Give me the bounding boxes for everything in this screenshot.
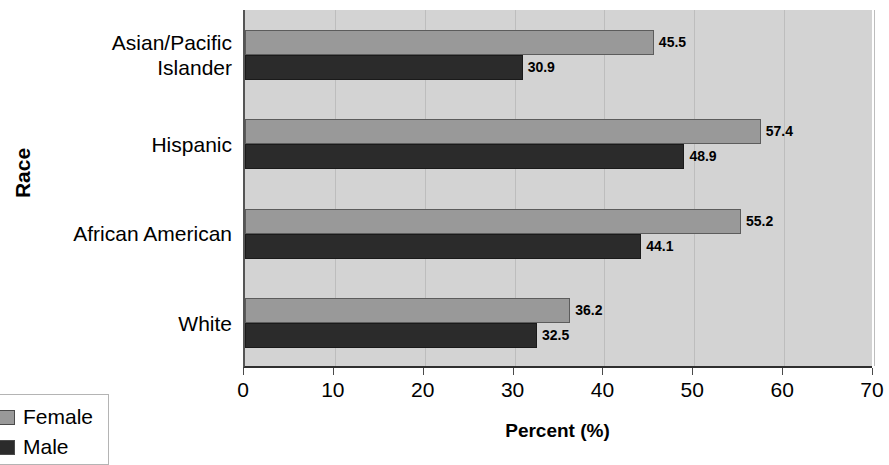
bar-female-african-american xyxy=(245,209,741,234)
bar-female-hispanic xyxy=(245,119,761,144)
x-axis-tick-mark xyxy=(513,368,514,375)
legend-item-male[interactable]: Male xyxy=(0,434,69,460)
legend-label: Male xyxy=(23,436,69,458)
category-label-line: African American xyxy=(0,221,232,246)
bar-value-label: 45.5 xyxy=(654,30,686,55)
gridline xyxy=(784,10,785,366)
legend-swatch-icon xyxy=(0,410,15,425)
bar-male-asian-pacific-islander xyxy=(245,55,523,80)
category-label: African American xyxy=(0,221,232,246)
bar-female-white xyxy=(245,298,570,323)
category-label: White xyxy=(0,311,232,336)
bar-value-label: 36.2 xyxy=(570,298,602,323)
category-label-line: Asian/Pacific xyxy=(0,30,232,55)
x-axis-tick-mark xyxy=(692,368,693,375)
bar-value-label: 44.1 xyxy=(641,234,673,259)
bar-male-hispanic xyxy=(245,144,684,169)
legend-item-female[interactable]: Female xyxy=(0,404,93,430)
category-label: Asian/PacificIslander xyxy=(0,30,232,80)
x-axis-tick-label: 60 xyxy=(752,378,812,402)
bar-value-label: 55.2 xyxy=(741,209,773,234)
bar-value-label: 32.5 xyxy=(537,323,569,348)
gridline xyxy=(874,10,875,366)
bar-male-african-american xyxy=(245,234,641,259)
x-axis-title: Percent (%) xyxy=(243,420,872,442)
plot-area: 36.232.555.244.157.448.945.530.9 xyxy=(243,10,872,368)
bar-chart: Race WhiteAfrican AmericanHispanicAsian/… xyxy=(0,0,889,465)
x-axis-tick-mark xyxy=(243,368,244,375)
bar-value-label: 57.4 xyxy=(761,119,793,144)
bar-value-label: 48.9 xyxy=(684,144,716,169)
x-axis-tick-mark xyxy=(602,368,603,375)
category-axis-labels: WhiteAfrican AmericanHispanicAsian/Pacif… xyxy=(0,10,238,368)
legend-label: Female xyxy=(23,406,93,428)
x-axis-tick-label: 20 xyxy=(393,378,453,402)
category-label-line: White xyxy=(0,311,232,336)
gridline xyxy=(604,10,605,366)
category-label: Hispanic xyxy=(0,132,232,157)
x-axis-tick-label: 10 xyxy=(303,378,363,402)
gridline xyxy=(694,10,695,366)
legend: FemaleMale xyxy=(0,394,109,465)
x-axis-tick-mark xyxy=(782,368,783,375)
x-axis-tick-mark xyxy=(423,368,424,375)
x-axis-tick-label: 40 xyxy=(572,378,632,402)
bar-value-label: 30.9 xyxy=(523,55,555,80)
x-axis-tick-mark xyxy=(333,368,334,375)
x-axis-tick-mark xyxy=(872,368,873,375)
x-axis-tick-label: 0 xyxy=(213,378,273,402)
category-label-line: Hispanic xyxy=(0,132,232,157)
x-axis-tick-label: 70 xyxy=(842,378,889,402)
x-axis-tick-label: 30 xyxy=(483,378,543,402)
legend-swatch-icon xyxy=(0,440,15,455)
category-label-line: Islander xyxy=(0,55,232,80)
bar-female-asian-pacific-islander xyxy=(245,30,654,55)
x-axis-tick-label: 50 xyxy=(662,378,722,402)
bar-male-white xyxy=(245,323,537,348)
